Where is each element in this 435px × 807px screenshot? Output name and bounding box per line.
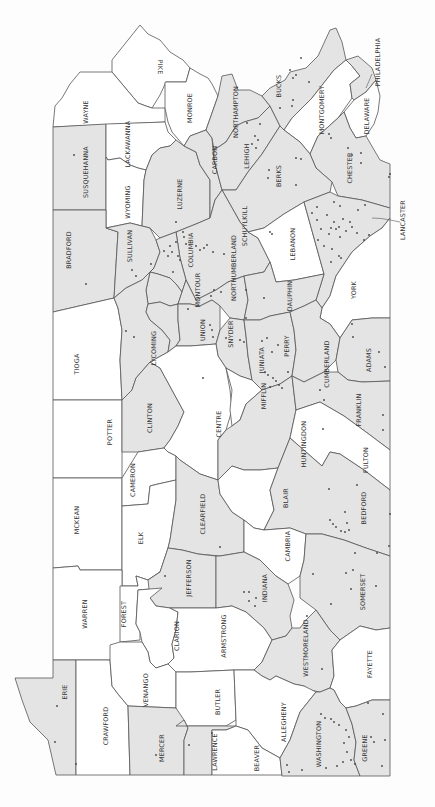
label-carbon: CARBON xyxy=(211,146,219,175)
county-erie[interactable] xyxy=(15,660,76,775)
label-susquehanna: SUSQUEHANNA xyxy=(82,146,90,198)
label-perry: PERRY xyxy=(283,335,291,356)
label-beaver: BEAVER xyxy=(253,744,261,771)
label-york: YORK xyxy=(350,280,358,300)
label-schuylkill: SCHUYLKILL xyxy=(241,205,249,246)
label-northumberland: NORTHUMBERLAND xyxy=(230,235,238,301)
label-westmoreland: WESTMORELAND xyxy=(302,619,310,677)
label-indiana: INDIANA xyxy=(261,573,269,602)
label-armstrong: ARMSTRONG xyxy=(220,614,228,657)
label-luzerne: LUZERNE xyxy=(176,179,184,210)
label-pike: PIKE xyxy=(156,60,164,75)
label-mercer: MERCER xyxy=(158,734,166,762)
county-mckean[interactable] xyxy=(53,478,122,570)
label-dauphin: DAUPHIN xyxy=(286,281,294,312)
label-centre: CENTRE xyxy=(215,411,223,438)
label-allegheny: ALLEGHENY xyxy=(280,702,288,742)
label-bradford: BRADFORD xyxy=(65,231,73,269)
label-sullivan: SULLIVAN xyxy=(126,230,134,262)
label-forest: FOREST xyxy=(120,601,128,627)
label-cameron: CAMERON xyxy=(129,463,137,497)
county-butler[interactable] xyxy=(176,670,236,726)
label-lawrence: LAWRENCE xyxy=(211,733,219,770)
label-mckean: MCKEAN xyxy=(73,506,81,535)
label-huntingdon: HUNTINGDON xyxy=(300,421,308,468)
label-butler: BUTLER xyxy=(214,689,222,716)
label-lancaster: LANCASTER xyxy=(399,200,407,240)
label-montgomery: MONTGOMERY xyxy=(318,86,326,135)
label-fayette: FAYETTE xyxy=(366,650,374,678)
label-bucks: BUCKS xyxy=(275,75,283,98)
label-adams: ADAMS xyxy=(365,348,373,372)
label-clarion: CLARION xyxy=(173,621,181,651)
label-juniata: JUNIATA xyxy=(258,346,266,374)
label-bedford: BEDFORD xyxy=(360,492,368,525)
label-warren: WARREN xyxy=(81,599,89,628)
label-fulton: FULTON xyxy=(362,447,370,473)
label-chester: CHESTER xyxy=(346,152,354,184)
label-franklin: FRANKLIN xyxy=(355,393,363,426)
county-tioga[interactable] xyxy=(53,298,122,400)
label-tioga: TIOGA xyxy=(73,353,81,376)
label-lebanon: LEBANON xyxy=(289,228,297,260)
label-lackawanna: LACKAWANNA xyxy=(124,120,132,167)
label-blair: BLAIR xyxy=(282,488,290,508)
label-monroe: MONROE xyxy=(186,93,194,123)
label-washington: WASHINGTON xyxy=(315,721,323,767)
label-elk: ELK xyxy=(137,531,145,544)
label-delaware: DELAWARE xyxy=(363,97,371,134)
label-venango: VENANGO xyxy=(142,673,150,707)
county-susquehanna[interactable] xyxy=(53,124,106,210)
label-berks: BERKS xyxy=(275,165,283,187)
label-mifflin: MIFFLIN xyxy=(260,383,268,409)
label-erie: ERIE xyxy=(61,684,69,699)
label-potter: POTTER xyxy=(106,419,114,446)
label-lycoming: LYCOMING xyxy=(150,331,158,366)
label-northampton: NORTHAMPTON xyxy=(232,86,240,138)
label-lehigh: LEHIGH xyxy=(243,143,251,168)
label-wyoming: WYOMING xyxy=(124,185,132,218)
label-montour: MONTOUR xyxy=(194,272,202,307)
label-crawford: CRAWFORD xyxy=(102,707,110,746)
label-greene: GREENE xyxy=(361,734,369,762)
label-clinton: CLINTON xyxy=(146,403,154,433)
label-clearfield: CLEARFIELD xyxy=(199,494,207,535)
label-snyder: SNYDER xyxy=(227,320,235,348)
label-jefferson: JEFFERSON xyxy=(185,559,193,597)
label-philadelphia: PHILADELPHIA xyxy=(374,37,382,86)
label-wayne: WAYNE xyxy=(82,100,90,124)
label-cambria: CAMBRIA xyxy=(284,530,292,561)
label-union: UNION xyxy=(199,319,207,341)
pennsylvania-county-map: PIKE WAYNE MONROE SUSQUEHANNA LACKAWANNA… xyxy=(0,0,435,807)
label-somerset: SOMERSET xyxy=(359,574,367,611)
label-cumberland: CUMBERLAND xyxy=(323,340,331,387)
label-columbia: COLUMBIA xyxy=(187,232,195,268)
